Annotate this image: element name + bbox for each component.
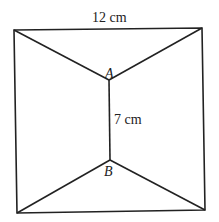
trapezoid-diagram: 12 cm 7 cm A B — [0, 0, 219, 222]
edge-topleft-a — [14, 30, 109, 80]
figure-lines — [14, 28, 205, 213]
top-length-label: 12 cm — [92, 10, 127, 25]
middle-length-label: 7 cm — [114, 112, 142, 127]
point-a-label: A — [104, 66, 114, 81]
point-b-label: B — [104, 164, 113, 179]
edge-topright-a — [109, 28, 202, 80]
segment-ab — [109, 80, 110, 160]
edge-bottomleft-b — [17, 160, 110, 213]
edge-bottomright-b — [110, 160, 205, 210]
